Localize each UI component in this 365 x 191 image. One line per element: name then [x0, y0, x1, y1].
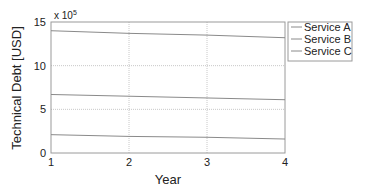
y-tick-label: 5 [40, 103, 46, 115]
x-axis-label: Year [155, 172, 182, 187]
series-lines [51, 31, 285, 139]
y-tick-label: 0 [40, 147, 46, 159]
series-line-service-b [51, 94, 285, 99]
plot-area-border [51, 22, 285, 153]
x-tick-labels: 1234 [48, 156, 288, 168]
line-chart: 1234 051015 x 105 Year Technical Debt [U… [0, 0, 365, 191]
x-tick-label: 3 [204, 156, 210, 168]
grid-lines [51, 22, 285, 153]
legend-item-label: Service A [304, 21, 351, 33]
x-tick-label: 1 [48, 156, 54, 168]
legend-item-label: Service C [304, 45, 352, 57]
y-tick-label: 10 [34, 60, 46, 72]
x-tick-label: 2 [126, 156, 132, 168]
legend-item-label: Service B [304, 33, 351, 45]
legend: Service AService BService C [288, 21, 352, 61]
y-multiplier-label: x 105 [54, 9, 77, 21]
y-tick-labels: 051015 [34, 16, 46, 159]
series-line-service-c [51, 135, 285, 139]
x-tick-label: 4 [282, 156, 288, 168]
y-axis-label: Technical Debt [USD] [9, 26, 24, 150]
y-tick-label: 15 [34, 16, 46, 28]
series-line-service-a [51, 31, 285, 38]
